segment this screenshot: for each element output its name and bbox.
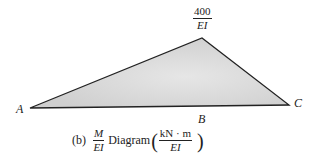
close-paren: ) — [197, 131, 204, 151]
point-b-label: B — [198, 113, 205, 125]
units-fraction: kN · m EI — [159, 128, 192, 153]
moment-area-triangle — [30, 38, 289, 108]
m-over-ei-fraction: M EI — [93, 128, 104, 153]
figure-caption: (b) M EI Diagram ( kN · m EI ) — [72, 128, 205, 153]
caption-tag: (b) — [72, 133, 86, 148]
point-a-label: A — [16, 103, 23, 115]
caption-title: Diagram — [108, 133, 150, 148]
open-paren: ( — [151, 131, 158, 151]
peak-numerator: 400 — [193, 6, 212, 19]
peak-value-label: 400 EI — [193, 6, 212, 31]
point-c-label: C — [294, 97, 302, 109]
peak-denominator: EI — [197, 19, 207, 31]
